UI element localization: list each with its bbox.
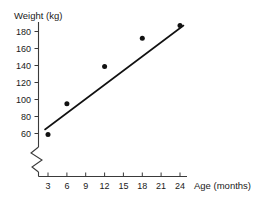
y-axis-title: Weight (kg) (14, 10, 62, 21)
trend-line (45, 26, 184, 130)
x-axis-title: Age (months) (194, 180, 251, 191)
x-tick-label-6: 6 (64, 181, 69, 191)
y-axis-break-icon (31, 147, 42, 172)
x-tick-label-21: 21 (156, 181, 166, 191)
y-tick-label-100: 100 (16, 95, 31, 105)
x-axis-ticks (48, 173, 180, 177)
x-tick-label-15: 15 (118, 181, 128, 191)
x-tick-label-18: 18 (137, 181, 147, 191)
data-point (46, 132, 51, 137)
y-axis-ticks (35, 32, 39, 134)
data-point (64, 101, 69, 106)
scatter-chart: 180 160 140 120 100 80 60 3 6 9 12 15 18 (0, 0, 257, 205)
y-tick-label-180: 180 (16, 27, 31, 37)
plot-area: 180 160 140 120 100 80 60 3 6 9 12 15 18 (0, 0, 257, 205)
x-axis-tick-labels: 3 6 9 12 15 18 21 24 (45, 181, 185, 191)
y-axis-tick-labels: 180 160 140 120 100 80 60 (16, 27, 31, 139)
x-tick-label-9: 9 (83, 181, 88, 191)
x-tick-label-12: 12 (100, 181, 110, 191)
data-points (46, 23, 183, 137)
x-tick-label-3: 3 (45, 181, 50, 191)
x-tick-label-24: 24 (175, 181, 185, 191)
y-tick-label-60: 60 (21, 129, 31, 139)
y-tick-label-80: 80 (21, 112, 31, 122)
data-point (140, 36, 145, 41)
data-point (102, 64, 107, 69)
data-point (178, 23, 183, 28)
y-tick-label-140: 140 (16, 61, 31, 71)
y-tick-label-120: 120 (16, 78, 31, 88)
y-tick-label-160: 160 (16, 44, 31, 54)
